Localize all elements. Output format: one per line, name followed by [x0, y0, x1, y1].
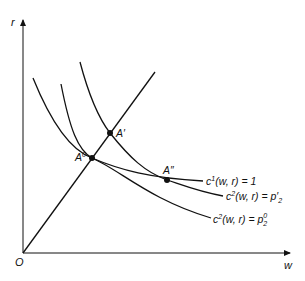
x-axis-label: w	[284, 259, 293, 271]
point-A-prime	[107, 130, 113, 136]
isocost-curve-c1	[61, 84, 203, 181]
label-A-prime: A′	[115, 127, 126, 139]
curve-label-c2-p2-zero: c2(w, r) = p02	[213, 212, 267, 227]
point-A0	[89, 155, 95, 161]
origin-label: O	[15, 256, 24, 268]
curve-label-c1: c1(w, r) = 1	[206, 175, 256, 187]
factor-price-diagram: r w O A0 A′ A″ c1(w, r) = 1 c2(w, r) = p…	[0, 0, 305, 281]
point-A-double-prime	[164, 177, 170, 183]
curve-label-c2-p2-prime: c2(w, r) = p′2	[226, 190, 282, 204]
y-axis-label: r	[11, 16, 16, 28]
label-A0: A0	[74, 151, 86, 163]
label-A-double-prime: A″	[162, 164, 175, 176]
